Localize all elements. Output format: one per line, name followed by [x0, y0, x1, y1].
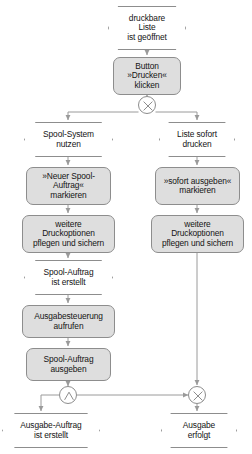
- function-weitere-druckoptionen-links: weitere Druckoptionen pflegen und sicher…: [22, 215, 115, 253]
- function-weitere-druckoptionen-rechts: weitere Druckoptionen pflegen und sicher…: [151, 215, 244, 253]
- function-spool-auftrag-ausgeben: Spool-Auftrag ausgeben: [26, 348, 111, 381]
- event-label: Ausgabe-Auftrag ist erstellt: [2, 413, 100, 448]
- event-liste-sofort-drucken: Liste sofort drucken: [159, 122, 235, 157]
- event-spool-auftrag-ist-erstellt: Spool-Auftrag ist erstellt: [24, 260, 113, 295]
- epc-diagram-canvas: druckbare Liste ist geöffnet Spool-Syste…: [0, 0, 252, 454]
- event-label: Liste sofort drucken: [159, 122, 235, 157]
- event-label: Spool-Auftrag ist erstellt: [24, 260, 113, 295]
- xor-connector-join: [188, 386, 206, 404]
- event-ausgabe-erfolgt: Ausgabe erfolgt: [161, 413, 237, 448]
- xor-connector-split: [138, 96, 156, 114]
- event-label: Ausgabe erfolgt: [161, 413, 237, 448]
- event-druckbare-liste-ist-geoeffnet: druckbare Liste ist geöffnet: [108, 6, 186, 50]
- event-spool-system-nutzen: Spool-System nutzen: [24, 122, 113, 157]
- event-ausgabe-auftrag-ist-erstellt: Ausgabe-Auftrag ist erstellt: [2, 413, 100, 448]
- function-sofort-ausgeben-markieren: »sofort ausgeben« markieren: [155, 167, 240, 205]
- function-neuer-spool-auftrag-markieren: »Neuer Spool- Auftrag« markieren: [26, 167, 111, 205]
- xor-icon: [189, 387, 207, 405]
- and-icon: [60, 387, 78, 405]
- function-button-drucken-klicken: Button »Drucken« klicken: [113, 57, 181, 95]
- xor-icon: [139, 97, 157, 115]
- function-ausgabesteuerung-aufrufen: Ausgabesteuerung aufrufen: [22, 305, 115, 338]
- event-label: Spool-System nutzen: [24, 122, 113, 157]
- and-connector-split: [59, 386, 77, 404]
- event-label: druckbare Liste ist geöffnet: [108, 6, 186, 50]
